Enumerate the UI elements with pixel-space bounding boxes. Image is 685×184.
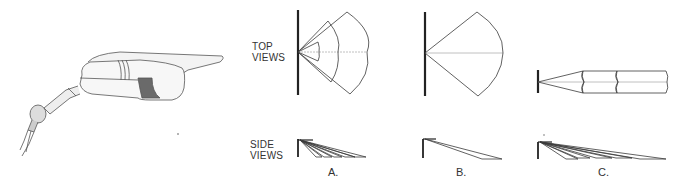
- panel-a-top-view: [298, 10, 369, 95]
- panel-c-top-view: [538, 70, 668, 93]
- panel-b-caption: B.: [456, 166, 466, 178]
- panel-a-caption: A.: [328, 166, 338, 178]
- panel-b-top-view: [425, 12, 503, 96]
- panel-b-side-view: [423, 139, 502, 159]
- beam-diagrams: [0, 0, 685, 184]
- panel-a-side-view: [298, 139, 366, 157]
- panel-c-side-view: [538, 142, 666, 159]
- panel-c-caption: C.: [598, 166, 609, 178]
